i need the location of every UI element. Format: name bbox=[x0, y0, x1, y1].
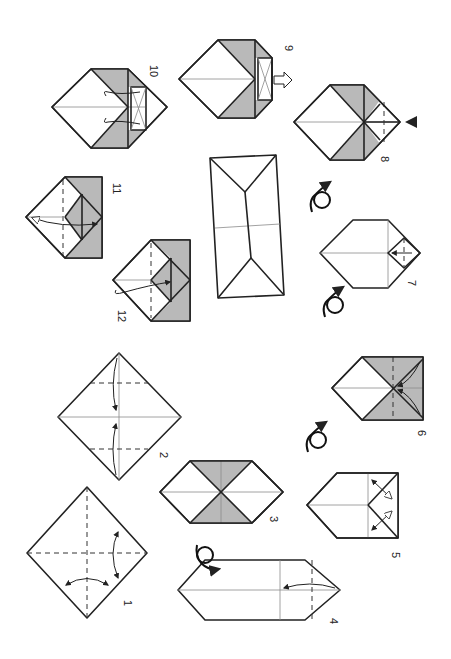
step-11: 11 bbox=[26, 177, 123, 258]
step-number: 3 bbox=[268, 516, 280, 522]
step-12: 12 bbox=[113, 240, 190, 322]
step-2: 2 bbox=[58, 353, 181, 480]
step-6: 6 bbox=[332, 357, 428, 436]
step-number: 4 bbox=[328, 618, 340, 624]
step-number: 9 bbox=[283, 45, 295, 51]
finished-model bbox=[210, 155, 284, 298]
step-9: 9 bbox=[179, 40, 295, 118]
step-number: 12 bbox=[116, 310, 128, 322]
step-3: 3 bbox=[160, 461, 283, 523]
step-number: 2 bbox=[158, 452, 170, 458]
push-arrow-icon bbox=[405, 116, 417, 128]
step-5: 5 bbox=[307, 473, 402, 558]
step-8: 8 bbox=[294, 85, 417, 162]
step-number: 1 bbox=[122, 600, 134, 606]
step-number: 10 bbox=[148, 65, 160, 77]
step-4: 4 bbox=[178, 560, 340, 624]
flip-over-icon bbox=[324, 287, 343, 317]
step-number: 7 bbox=[406, 280, 418, 286]
flip-over-icon bbox=[307, 422, 326, 452]
step-10: 10 bbox=[52, 65, 167, 148]
pull-arrow-icon bbox=[274, 72, 292, 88]
flip-over-icon bbox=[311, 182, 330, 212]
step-number: 5 bbox=[390, 552, 402, 558]
step-number: 11 bbox=[111, 183, 123, 194]
step-7: 7 bbox=[320, 220, 420, 288]
origami-diagram: 1 2 3 4 bbox=[0, 0, 451, 659]
step-number: 8 bbox=[379, 156, 391, 162]
step-number: 6 bbox=[416, 430, 428, 436]
step-1: 1 bbox=[27, 487, 147, 618]
